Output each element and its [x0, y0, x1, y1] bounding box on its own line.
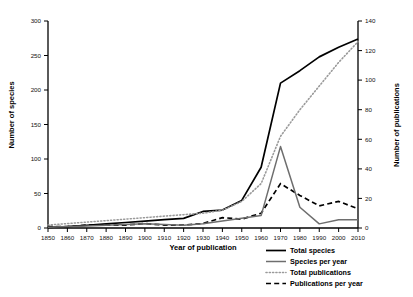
y-tick-label-right: 120 [365, 47, 376, 54]
axes-group [48, 21, 358, 228]
y-tick-label-left: 300 [31, 17, 42, 24]
y-tick-label-right: 0 [365, 224, 369, 231]
legend-label-publications-per-year: Publications per year [290, 279, 363, 288]
y-tick-label-right: 140 [365, 17, 376, 24]
y-tick-label-right: 80 [365, 106, 372, 113]
legend-label-species-per-year: Species per year [290, 257, 347, 266]
x-tick-label: 1940 [215, 234, 229, 241]
x-tick-label: 1950 [235, 234, 249, 241]
x-tick-label: 1970 [274, 234, 288, 241]
series-group [48, 39, 358, 227]
y-tick-label-right: 20 [365, 195, 372, 202]
x-axis-title: Year of publication [169, 243, 237, 252]
x-tick-label: 2010 [351, 234, 365, 241]
legend-label-total-publications: Total publications [290, 268, 351, 277]
x-tick-label: 1880 [99, 234, 113, 241]
x-tick-label: 1980 [293, 234, 307, 241]
series-line-species-per-year [48, 147, 358, 228]
x-tick-label: 2000 [332, 234, 346, 241]
x-tick-label: 1910 [157, 234, 171, 241]
y-axis-left-ticks: 0 50 100 150 200 250 300 [31, 17, 48, 231]
legend-label-total-species: Total species [290, 246, 335, 255]
x-tick-label: 1860 [60, 234, 74, 241]
y-tick-label-right: 60 [365, 136, 372, 143]
y-axis-right-title: Number of publications [392, 83, 401, 167]
y-axis-left-title: Number of species [7, 81, 16, 148]
chart-legend: Total species Species per year Total pub… [266, 246, 363, 288]
y-tick-label-right: 40 [365, 165, 372, 172]
x-tick-label: 1900 [138, 234, 152, 241]
series-line-total-species [48, 39, 358, 227]
x-tick-label: 1870 [80, 234, 94, 241]
x-tick-label: 1890 [119, 234, 133, 241]
y-tick-label-left: 50 [34, 190, 41, 197]
y-tick-label-right: 100 [365, 76, 376, 83]
x-tick-label: 1960 [254, 234, 268, 241]
chart-figure: 0 50 100 150 200 250 300 0 20 40 60 80 1… [0, 0, 413, 297]
y-tick-label-left: 150 [31, 121, 42, 128]
x-tick-label: 1850 [41, 234, 55, 241]
series-line-total-publications [48, 42, 358, 225]
y-tick-label-left: 250 [31, 52, 42, 59]
x-tick-label: 1920 [177, 234, 191, 241]
series-line-publications-per-year [48, 184, 358, 227]
y-tick-label-left: 200 [31, 86, 42, 93]
y-tick-label-left: 0 [38, 224, 42, 231]
y-axis-right-ticks: 0 20 40 60 80 100 120 140 [358, 17, 376, 231]
x-tick-label: 1930 [196, 234, 210, 241]
x-tick-label: 1990 [312, 234, 326, 241]
y-tick-label-left: 100 [31, 155, 42, 162]
x-axis-ticks: 1850186018701880189019001910192019301940… [41, 228, 365, 241]
